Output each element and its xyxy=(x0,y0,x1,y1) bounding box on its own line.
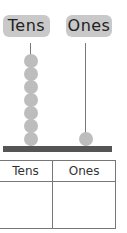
tens-label: Tens xyxy=(3,15,50,37)
bead xyxy=(24,132,38,146)
place-value-table: Tens Ones xyxy=(0,160,116,229)
ones-label: Ones xyxy=(66,15,112,37)
answer-cell-tens[interactable] xyxy=(0,182,53,229)
header-ones: Ones xyxy=(53,161,116,182)
bead xyxy=(24,67,38,81)
bead xyxy=(24,54,38,68)
table-row xyxy=(0,182,116,229)
table-header-row: Tens Ones xyxy=(0,161,116,182)
bead xyxy=(24,80,38,94)
bead xyxy=(79,132,93,146)
abacus-base xyxy=(3,146,112,152)
bead xyxy=(24,106,38,120)
ones-rod xyxy=(85,43,86,146)
bead xyxy=(24,119,38,133)
answer-cell-ones[interactable] xyxy=(53,182,116,229)
header-tens: Tens xyxy=(0,161,53,182)
bead xyxy=(24,93,38,107)
